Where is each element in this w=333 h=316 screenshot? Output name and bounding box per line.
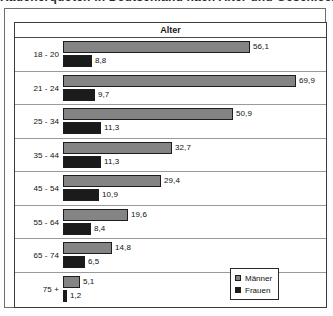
bar-value-frauen: 11,3: [101, 122, 119, 134]
chart-legend: Männer Frauen: [230, 268, 279, 300]
bar-frauen[interactable]: [63, 122, 101, 134]
bar-maenner[interactable]: [63, 276, 80, 288]
row-bars: 50,9 11,3: [63, 105, 326, 138]
bar-group-maenner: 5,1: [63, 276, 94, 288]
bar-group-maenner: 56,1: [63, 41, 269, 53]
bar-frauen[interactable]: [63, 156, 101, 168]
category-label: 35 - 44: [15, 150, 59, 159]
bar-value-frauen: 1,2: [67, 290, 81, 302]
category-label: 25 - 34: [15, 117, 59, 126]
page-title: Raucherquoten in Deutschland nach Alter …: [0, 0, 333, 4]
legend-item-maenner[interactable]: Männer: [235, 272, 272, 284]
bar-value-frauen: 6,5: [85, 256, 99, 268]
bar-row: 55 - 64 19,6 8,4: [15, 206, 326, 240]
bar-maenner[interactable]: [63, 142, 172, 154]
category-label: 65 - 74: [15, 251, 59, 260]
bar-group-maenner: 14,8: [63, 242, 131, 254]
category-label: 18 - 20: [15, 50, 59, 59]
bar-value-maenner: 69,9: [296, 75, 315, 87]
bar-value-maenner: 14,8: [112, 242, 131, 254]
bar-group-frauen: 8,8: [63, 55, 106, 67]
row-bars: 32,7 11,3: [63, 139, 326, 172]
bar-row: 21 - 24 69,9 9,7: [15, 72, 326, 106]
bar-value-frauen: 10,9: [99, 189, 118, 201]
chart-outer-frame: Alter 18 - 20 56,1 8,8 21 - 24: [4, 8, 326, 308]
category-label: 45 - 54: [15, 184, 59, 193]
bar-group-maenner: 69,9: [63, 75, 315, 87]
chart-screenshot: Raucherquoten in Deutschland nach Alter …: [0, 0, 333, 316]
bar-group-frauen: 11,3: [63, 156, 119, 168]
bar-value-frauen: 8,8: [92, 55, 106, 67]
bar-group-frauen: 1,2: [63, 290, 81, 302]
bar-value-maenner: 50,9: [233, 108, 252, 120]
bar-row: 75 + 5,1 1,2: [15, 273, 326, 307]
bar-group-frauen: 11,3: [63, 122, 119, 134]
legend-label-maenner: Männer: [245, 274, 272, 283]
plot-area: Alter 18 - 20 56,1 8,8 21 - 24: [14, 22, 327, 308]
legend-label-frauen: Frauen: [245, 286, 270, 295]
row-bars: 14,8 6,5: [63, 239, 326, 272]
bar-row: 25 - 34 50,9 11,3: [15, 105, 326, 139]
bar-value-frauen: 8,4: [91, 223, 105, 235]
bar-frauen[interactable]: [63, 55, 92, 67]
bar-frauen[interactable]: [63, 256, 85, 268]
bar-frauen[interactable]: [63, 189, 99, 201]
bar-maenner[interactable]: [63, 175, 161, 187]
bar-value-maenner: 56,1: [250, 41, 269, 53]
category-label: 21 - 24: [15, 83, 59, 92]
row-bars: 29,4 10,9: [63, 172, 326, 205]
bar-value-frauen: 9,7: [95, 89, 109, 101]
row-bars: 5,1 1,2: [63, 273, 326, 307]
bar-maenner[interactable]: [63, 41, 250, 53]
row-bars: 69,9 9,7: [63, 72, 326, 105]
row-bars: 56,1 8,8: [63, 38, 326, 71]
bar-group-maenner: 29,4: [63, 175, 180, 187]
category-label: 55 - 64: [15, 217, 59, 226]
category-axis-header: Alter: [15, 24, 326, 38]
bar-row: 35 - 44 32,7 11,3: [15, 139, 326, 173]
bar-maenner[interactable]: [63, 108, 233, 120]
bar-maenner[interactable]: [63, 75, 296, 87]
bar-group-maenner: 50,9: [63, 108, 252, 120]
bar-value-maenner: 19,6: [128, 209, 147, 221]
legend-swatch-icon: [235, 287, 241, 293]
bar-value-maenner: 29,4: [161, 175, 180, 187]
bar-value-maenner: 5,1: [80, 276, 94, 288]
legend-item-frauen[interactable]: Frauen: [235, 284, 272, 296]
bar-row: 45 - 54 29,4 10,9: [15, 172, 326, 206]
bar-group-frauen: 9,7: [63, 89, 109, 101]
bar-frauen[interactable]: [63, 223, 91, 235]
legend-swatch-icon: [235, 275, 241, 281]
bar-value-maenner: 32,7: [172, 142, 191, 154]
bar-row: 18 - 20 56,1 8,8: [15, 38, 326, 72]
chart-title-cropped: Raucherquoten in Deutschland nach Alter …: [0, 0, 333, 6]
bar-maenner[interactable]: [63, 242, 112, 254]
bar-maenner[interactable]: [63, 209, 128, 221]
bar-value-frauen: 11,3: [101, 156, 119, 168]
bar-group-maenner: 32,7: [63, 142, 191, 154]
bar-rows: 18 - 20 56,1 8,8 21 - 24 69,9: [15, 38, 326, 307]
bar-group-frauen: 10,9: [63, 189, 118, 201]
bar-row: 65 - 74 14,8 6,5: [15, 239, 326, 273]
bar-group-frauen: 8,4: [63, 223, 105, 235]
bar-group-maenner: 19,6: [63, 209, 147, 221]
bar-frauen[interactable]: [63, 89, 95, 101]
bar-group-frauen: 6,5: [63, 256, 99, 268]
row-bars: 19,6 8,4: [63, 206, 326, 239]
category-label: 75 +: [15, 285, 59, 294]
